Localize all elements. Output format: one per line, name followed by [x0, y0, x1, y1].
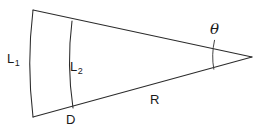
diagram-canvas	[0, 0, 259, 130]
label-outer-arc-length: L1	[7, 52, 20, 65]
label-radius: R	[150, 93, 159, 106]
outer-arc-path	[30, 10, 33, 117]
label-apex-angle: θ	[210, 22, 219, 37]
label-depth: D	[66, 113, 75, 126]
upper-radius-line	[33, 10, 252, 57]
lower-radius-line	[33, 57, 252, 117]
apex-angle-arc	[213, 40, 215, 69]
label-inner-arc-length: L2	[70, 60, 83, 73]
annular-sector-diagram: L1 L2 R D θ	[0, 0, 259, 130]
label-inner-arc-subscript: 2	[77, 66, 83, 76]
label-outer-arc-subscript: 1	[14, 58, 20, 68]
